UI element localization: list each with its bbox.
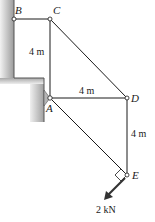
joints	[12, 17, 129, 177]
label-d: D	[130, 92, 139, 104]
label-b: B	[15, 4, 22, 16]
joint-a	[48, 96, 52, 100]
member-ae	[50, 98, 127, 175]
dimension-ad: 4 m	[79, 85, 95, 96]
wall-support	[0, 0, 44, 122]
joint-d	[125, 96, 129, 100]
load-label: 2 kN	[96, 204, 116, 215]
dimension-de: 4 m	[131, 128, 147, 139]
dimension-ca: 4 m	[29, 46, 45, 57]
label-a: A	[45, 102, 53, 114]
load-arrow-icon	[104, 178, 125, 200]
label-e: E	[131, 169, 139, 181]
label-c: C	[53, 4, 61, 16]
truss-diagram: B C A D E 4 m 4 m 4 m 2 kN	[0, 0, 155, 222]
joint-b	[12, 17, 16, 21]
joint-e	[125, 173, 129, 177]
joint-c	[48, 17, 52, 21]
